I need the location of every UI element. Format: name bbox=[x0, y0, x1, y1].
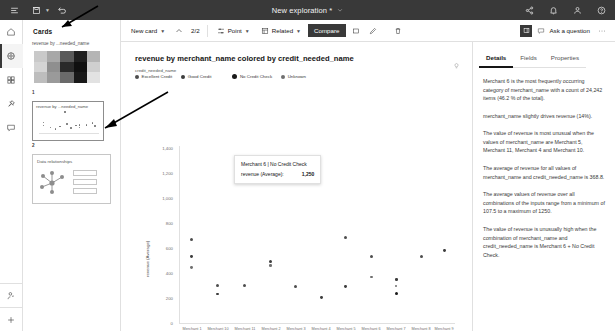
related-icon bbox=[261, 27, 269, 35]
data-point[interactable] bbox=[344, 236, 347, 239]
data-point[interactable] bbox=[370, 255, 373, 258]
panel-toggle-button[interactable] bbox=[520, 25, 532, 37]
sidebar-item-account[interactable] bbox=[0, 283, 23, 307]
insight-item: Merchant 6 is the most frequently occurr… bbox=[483, 77, 605, 103]
chevron-down-icon: ▼ bbox=[245, 28, 250, 34]
y-tick: 0 bbox=[151, 321, 173, 326]
heatmap-preview bbox=[34, 51, 100, 83]
x-tick: Merchant 6 bbox=[358, 327, 384, 331]
sidebar-item-add[interactable] bbox=[0, 307, 23, 331]
data-point[interactable] bbox=[190, 255, 193, 258]
frame-icon[interactable] bbox=[349, 24, 363, 38]
sidebar-item-home[interactable] bbox=[0, 20, 23, 44]
x-tick: Merchant 4 bbox=[308, 327, 334, 331]
top-bar-right-actions bbox=[519, 0, 611, 20]
point-menu[interactable]: Point ▼ bbox=[213, 25, 254, 37]
card-thumb-1-preview bbox=[32, 48, 104, 88]
y-axis-label: revenue (Average) bbox=[145, 241, 150, 277]
scatter-preview bbox=[39, 110, 99, 134]
data-point[interactable] bbox=[269, 260, 272, 263]
y-tick: 1,000 bbox=[151, 196, 173, 201]
share-icon[interactable] bbox=[519, 0, 539, 20]
bell-icon[interactable] bbox=[543, 0, 563, 20]
chart-pane: revenue by merchant_name colored by cred… bbox=[121, 42, 473, 331]
chevron-down-icon: ▼ bbox=[160, 28, 165, 34]
new-card-label: New card bbox=[131, 27, 157, 34]
data-point[interactable] bbox=[269, 264, 272, 267]
y-axis-line bbox=[179, 146, 180, 324]
insight-item: The value of revenue is unusually high w… bbox=[483, 225, 605, 259]
y-tick: 800 bbox=[151, 221, 173, 226]
data-point[interactable] bbox=[243, 284, 246, 287]
chevron-down-icon: ▼ bbox=[296, 28, 301, 34]
data-point[interactable] bbox=[395, 292, 398, 295]
data-point[interactable] bbox=[216, 293, 218, 295]
relationship-items bbox=[73, 170, 97, 194]
grid-icon bbox=[6, 75, 16, 85]
point-icon bbox=[217, 27, 225, 35]
insight-item: The value of revenue is most unusual whe… bbox=[483, 129, 605, 155]
y-tick: 200 bbox=[151, 296, 173, 301]
chat-icon bbox=[537, 27, 545, 35]
data-relationships-title: Data relationships bbox=[37, 159, 106, 164]
help-icon[interactable] bbox=[591, 0, 611, 20]
data-relationships-panel[interactable]: Data relationships bbox=[32, 154, 111, 204]
data-point[interactable] bbox=[395, 285, 397, 287]
data-point[interactable] bbox=[420, 255, 423, 258]
insight-item: The average values of revenue over all c… bbox=[483, 190, 605, 216]
ask-a-question-button[interactable]: Ask a question bbox=[537, 27, 590, 35]
sidebar-item-data[interactable] bbox=[0, 68, 23, 92]
y-tick: 400 bbox=[151, 271, 173, 276]
tab-details[interactable]: Details bbox=[479, 50, 513, 68]
home-icon bbox=[6, 27, 16, 37]
relationship-item[interactable] bbox=[73, 179, 97, 185]
data-point[interactable] bbox=[190, 266, 193, 269]
data-point[interactable] bbox=[216, 284, 219, 287]
tab-properties[interactable]: Properties bbox=[544, 50, 586, 68]
data-point[interactable] bbox=[395, 278, 398, 281]
trash-icon[interactable] bbox=[391, 24, 405, 38]
gear-icon bbox=[6, 51, 16, 61]
card-thumb-1[interactable]: revenue by ...needed_name 1 bbox=[23, 41, 120, 95]
data-relationships-body bbox=[37, 167, 106, 197]
toolbar-divider bbox=[207, 25, 208, 37]
tab-fields[interactable]: Fields bbox=[513, 50, 544, 68]
sidebar-item-comments[interactable] bbox=[0, 116, 23, 140]
pencil-icon[interactable] bbox=[366, 24, 380, 38]
data-point[interactable] bbox=[443, 249, 446, 252]
data-point[interactable] bbox=[190, 238, 193, 241]
relationship-item[interactable] bbox=[73, 170, 97, 176]
insight-item: The average of revenue for all values of… bbox=[483, 164, 605, 181]
insight-item: merchant_name slightly drives revenue (1… bbox=[483, 112, 605, 121]
card-thumb-1-label: revenue by ...needed_name bbox=[32, 41, 111, 46]
sidebar-item-explore[interactable] bbox=[0, 44, 23, 68]
overflow-icon[interactable] bbox=[595, 24, 609, 38]
data-point[interactable] bbox=[370, 276, 372, 278]
cards-panel: Cards revenue by ...needed_name 1 revenu… bbox=[23, 20, 121, 331]
user-icon[interactable] bbox=[567, 0, 587, 20]
card-thumb-2-label: revenue by ...needed_name bbox=[33, 102, 103, 109]
collapse-button[interactable] bbox=[172, 24, 186, 38]
data-point[interactable] bbox=[320, 296, 323, 299]
pin-icon bbox=[6, 99, 16, 109]
sidebar-item-pinned[interactable] bbox=[0, 92, 23, 116]
x-tick: Merchant 11 bbox=[231, 327, 259, 331]
related-menu[interactable]: Related ▼ bbox=[257, 25, 305, 37]
relationship-graph-icon bbox=[37, 167, 69, 197]
relationship-item[interactable] bbox=[73, 188, 97, 194]
card-thumb-2-number: 2 bbox=[32, 143, 111, 148]
plus-icon bbox=[6, 315, 16, 325]
x-tick: Merchant 9 bbox=[431, 327, 457, 331]
new-card-button[interactable]: New card ▼ bbox=[127, 25, 169, 36]
person-icon bbox=[6, 291, 16, 301]
y-tick: 1,200 bbox=[151, 171, 173, 176]
exploration-app: ▼ New exploration * bbox=[0, 0, 615, 331]
card-thumb-2[interactable]: revenue by ...needed_name 2 bbox=[23, 101, 120, 148]
panel-icon bbox=[523, 27, 530, 34]
data-point[interactable] bbox=[344, 285, 347, 288]
top-bar: ▼ New exploration * bbox=[0, 0, 615, 20]
data-point[interactable] bbox=[294, 285, 297, 288]
scatter-plot: 1,400 1,200 1,000 800 600 400 200 0 reve… bbox=[121, 42, 473, 331]
compare-button[interactable]: Compare bbox=[308, 24, 345, 37]
related-label: Related bbox=[272, 27, 293, 34]
